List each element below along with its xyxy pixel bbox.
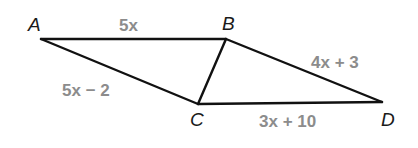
segment-cd — [198, 102, 382, 104]
geometry-diagram: A B C D 5x 5x − 2 4x + 3 3x + 10 — [0, 0, 418, 148]
side-label-cd: 3x + 10 — [259, 112, 316, 131]
vertex-label-c: C — [190, 109, 204, 130]
vertex-label-a: A — [27, 14, 41, 35]
side-label-ac: 5x − 2 — [62, 81, 110, 100]
vertex-label-d: D — [381, 109, 395, 130]
side-label-ab: 5x — [119, 16, 138, 35]
segment-bc — [198, 39, 226, 104]
side-label-bd: 4x + 3 — [311, 53, 359, 72]
vertex-label-b: B — [222, 13, 235, 34]
